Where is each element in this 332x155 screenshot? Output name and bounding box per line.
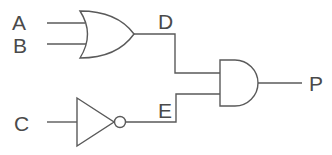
input-label-b: B: [13, 34, 27, 57]
input-label-c: C: [14, 112, 29, 135]
output-label-p: P: [309, 72, 323, 95]
wire-d: [134, 34, 220, 73]
intermediate-label-e: E: [158, 99, 172, 122]
intermediate-label-d: D: [158, 10, 173, 33]
input-label-a: A: [12, 11, 26, 34]
or-gate: [80, 11, 134, 58]
and-gate: [220, 60, 258, 106]
wire-e: [126, 94, 221, 122]
not-gate-bubble: [115, 117, 126, 128]
not-gate: [77, 98, 114, 146]
logic-circuit-diagram: A B C D E P: [0, 0, 332, 155]
